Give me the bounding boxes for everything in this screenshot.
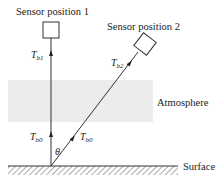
angle-theta-label: θ: [55, 146, 60, 157]
atmosphere-band: [8, 80, 153, 122]
surface-hatch: [8, 166, 178, 175]
arrow-tb0-vertical: [49, 131, 53, 137]
arrow-tb1: [49, 50, 53, 56]
sensor-2-box: [134, 33, 156, 55]
radiometer-diagram: Sensor position 1 Sensor position 2 Atmo…: [0, 0, 221, 185]
tb1-label: Tb1: [31, 49, 44, 62]
surface-label: Surface: [183, 161, 215, 172]
tb2-label: Tb2: [111, 57, 124, 70]
sensor-1-label: Sensor position 1: [16, 6, 89, 17]
tb0-vertical-label: Tb0: [30, 131, 43, 144]
sensor-2-label: Sensor position 2: [107, 21, 180, 32]
atmosphere-label: Atmosphere: [157, 97, 209, 108]
tb0-slant-label: Tb0: [80, 131, 93, 144]
sensor-1-box: [43, 22, 59, 38]
